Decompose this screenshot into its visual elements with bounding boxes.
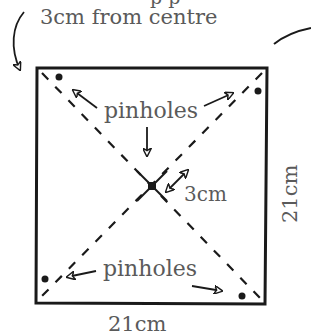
- arrow-to-top-right-icon: [204, 93, 233, 106]
- pinholes-label-bottom: pinholes: [103, 256, 197, 281]
- pinhole-dot-top-left: [56, 74, 63, 81]
- top-annotation-label: 3cm from centre: [40, 5, 217, 29]
- center-pinhole-dot: [148, 182, 156, 190]
- width-label: 21cm: [108, 312, 166, 336]
- pinhole-dot-bottom-right: [239, 293, 246, 300]
- curve-fragment: [274, 28, 311, 44]
- arrow-to-bottom-right-icon: [192, 286, 222, 291]
- curved-arrow-icon: [14, 12, 24, 70]
- arrow-to-top-left-icon: [73, 90, 97, 108]
- center-distance-label: 3cm: [184, 182, 227, 206]
- pinhole-dot-bottom-left: [42, 276, 49, 283]
- arrow-to-bottom-left-icon: [67, 271, 96, 277]
- pinhole-dot-top-right: [255, 88, 262, 95]
- pinholes-label-top: pinholes: [104, 98, 198, 123]
- pinhole-diagram: p p 3cm from centre pinholes 3cm pinhole…: [0, 0, 311, 336]
- height-label: 21cm: [278, 165, 302, 223]
